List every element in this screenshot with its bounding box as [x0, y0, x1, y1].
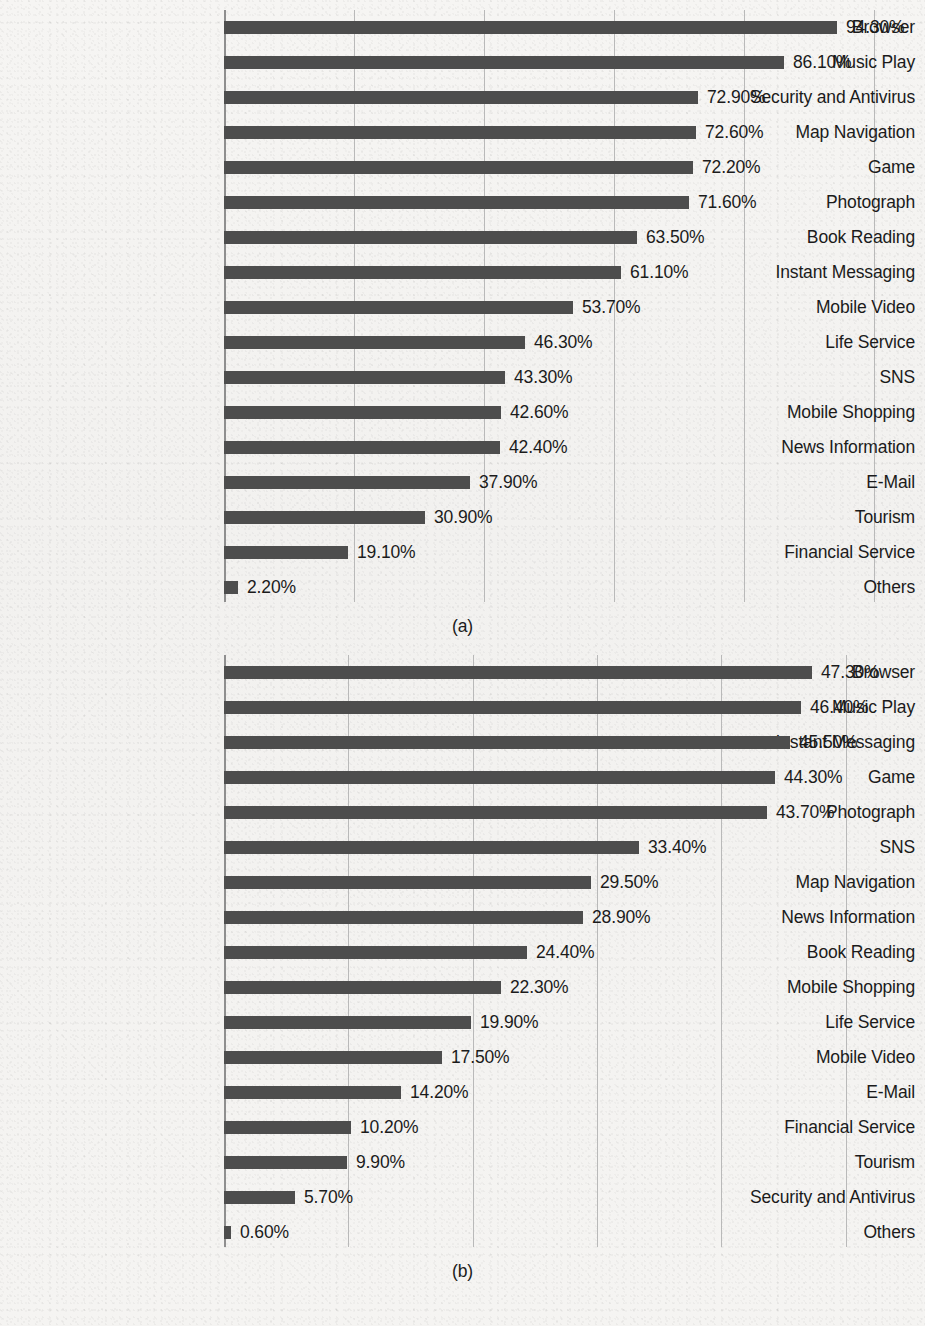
bar-row: Security and Antivirus72.90% — [0, 80, 925, 115]
bar-value-label: 63.50% — [646, 229, 704, 247]
bar-value-label: 17.50% — [451, 1049, 509, 1067]
bar-value-label: 14.20% — [410, 1084, 468, 1102]
figure-b: Browser47.30%Music Play46.40%Instant Mes… — [0, 655, 925, 1320]
bar-row: Others0.60% — [0, 1215, 925, 1250]
bar-container: 19.90% — [224, 1005, 925, 1040]
bar-container: 46.30% — [224, 325, 925, 360]
bar — [224, 701, 801, 714]
bar-value-label: 43.70% — [776, 804, 834, 822]
bar-row: Map Navigation72.60% — [0, 115, 925, 150]
bar-row: Browser94.30% — [0, 10, 925, 45]
bar-row: Others2.20% — [0, 570, 925, 605]
bar-container: 5.70% — [224, 1180, 925, 1215]
bar-container: 47.30% — [224, 655, 925, 690]
bar — [224, 666, 812, 679]
bar — [224, 946, 527, 959]
chart-a: Browser94.30%Music Play86.10%Security an… — [0, 10, 925, 602]
bar — [224, 1121, 351, 1134]
bar-value-label: 61.10% — [630, 264, 688, 282]
bar-value-label: 47.30% — [821, 664, 879, 682]
bar — [224, 406, 501, 419]
bar-row: Life Service46.30% — [0, 325, 925, 360]
figure-caption-b-text: (b) — [452, 1261, 473, 1282]
bar-row: Photograph71.60% — [0, 185, 925, 220]
bar-value-label: 19.10% — [357, 544, 415, 562]
figure-caption-a-text: (a) — [452, 616, 473, 637]
bar — [224, 56, 784, 69]
bar-value-label: 5.70% — [304, 1189, 353, 1207]
bar — [224, 1086, 401, 1099]
bar-row: Book Reading63.50% — [0, 220, 925, 255]
bar-row: Financial Service10.20% — [0, 1110, 925, 1145]
bar-container: 14.20% — [224, 1075, 925, 1110]
bar-container: 86.10% — [224, 45, 925, 80]
bar — [224, 1191, 295, 1204]
bar — [224, 1226, 231, 1239]
bar-value-label: 37.90% — [479, 474, 537, 492]
bar — [224, 981, 501, 994]
bar — [224, 161, 693, 174]
bar-value-label: 30.90% — [434, 509, 492, 527]
bar-container: 44.30% — [224, 760, 925, 795]
bar-container: 37.90% — [224, 465, 925, 500]
bar-container: 2.20% — [224, 570, 925, 605]
bar-container: 0.60% — [224, 1215, 925, 1250]
bar-container: 10.20% — [224, 1110, 925, 1145]
bar-container: 61.10% — [224, 255, 925, 290]
bar-container: 22.30% — [224, 970, 925, 1005]
bar-row: Game72.20% — [0, 150, 925, 185]
bar-container: 94.30% — [224, 10, 925, 45]
bar-container: 72.20% — [224, 150, 925, 185]
bar — [224, 336, 525, 349]
bar-row: E-Mail37.90% — [0, 465, 925, 500]
bar-row: Game44.30% — [0, 760, 925, 795]
bar-value-label: 9.90% — [356, 1154, 405, 1172]
bar-container: 42.40% — [224, 430, 925, 465]
bar-row: Mobile Shopping42.60% — [0, 395, 925, 430]
bar-container: 43.30% — [224, 360, 925, 395]
bar — [224, 581, 238, 594]
bar — [224, 1156, 347, 1169]
bar-container: 46.40% — [224, 690, 925, 725]
bar-row: Security and Antivirus5.70% — [0, 1180, 925, 1215]
bar — [224, 91, 698, 104]
bar-row: Instant Messaging61.10% — [0, 255, 925, 290]
bar-value-label: 0.60% — [240, 1224, 289, 1242]
figure-a: Browser94.30%Music Play86.10%Security an… — [0, 10, 925, 650]
bar-value-label: 46.40% — [810, 699, 868, 717]
bar-container: 33.40% — [224, 830, 925, 865]
bar-row: Instant Messaging45.50% — [0, 725, 925, 760]
bar-container: 24.40% — [224, 935, 925, 970]
bar-row: Tourism9.90% — [0, 1145, 925, 1180]
bar-value-label: 29.50% — [600, 874, 658, 892]
bar-rows-b: Browser47.30%Music Play46.40%Instant Mes… — [0, 655, 925, 1250]
bar-container: 17.50% — [224, 1040, 925, 1075]
bar-value-label: 72.90% — [707, 89, 765, 107]
bar-value-label: 53.70% — [582, 299, 640, 317]
bar — [224, 771, 775, 784]
bar-value-label: 33.40% — [648, 839, 706, 857]
bar-row: Music Play86.10% — [0, 45, 925, 80]
bar-row: SNS43.30% — [0, 360, 925, 395]
bar-value-label: 72.60% — [705, 124, 763, 142]
bar-row: Mobile Shopping22.30% — [0, 970, 925, 1005]
bar-container: 45.50% — [224, 725, 925, 760]
bar — [224, 876, 591, 889]
bar-container: 43.70% — [224, 795, 925, 830]
bar-row: Music Play46.40% — [0, 690, 925, 725]
bar — [224, 546, 348, 559]
bar-container: 42.60% — [224, 395, 925, 430]
bar — [224, 231, 637, 244]
bar-value-label: 10.20% — [360, 1119, 418, 1137]
bar-row: Book Reading24.40% — [0, 935, 925, 970]
bar-value-label: 71.60% — [698, 194, 756, 212]
bar — [224, 266, 621, 279]
bar-row: SNS33.40% — [0, 830, 925, 865]
bar — [224, 841, 639, 854]
bar-row: News Information28.90% — [0, 900, 925, 935]
bar-row: Mobile Video53.70% — [0, 290, 925, 325]
bar-container: 72.60% — [224, 115, 925, 150]
bar-row: Photograph43.70% — [0, 795, 925, 830]
bar-value-label: 42.40% — [509, 439, 567, 457]
bar-container: 28.90% — [224, 900, 925, 935]
